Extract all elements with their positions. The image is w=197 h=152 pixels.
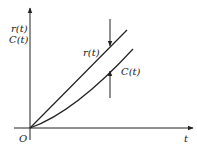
c-t-label: C(t): [121, 66, 141, 77]
r-t-line: [30, 30, 127, 128]
y-axis-label-c: C(t): [9, 34, 29, 45]
x-axis-label: t: [184, 133, 189, 144]
y-axis-label-r: r(t): [11, 23, 28, 34]
r-t-label: r(t): [83, 47, 100, 58]
origin-label: O: [19, 133, 27, 144]
c-t-curve: [30, 49, 133, 128]
ramp-response-diagram: r(t) C(t) r(t) C(t) O t: [0, 0, 197, 152]
